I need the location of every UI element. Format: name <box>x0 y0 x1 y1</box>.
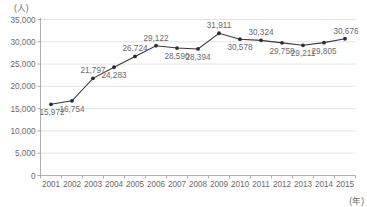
data-point-marker <box>217 31 221 35</box>
y-tick-label: 25,000 <box>10 60 35 69</box>
x-tick-label: 2008 <box>189 180 208 189</box>
data-labels: 15,97216,75421,79724,28326,72429,12228,5… <box>39 21 358 117</box>
x-tick-label: 2012 <box>273 180 292 189</box>
x-tick-label: 2007 <box>168 180 187 189</box>
data-point-label: 29,805 <box>311 47 336 56</box>
y-tick-label: 30,000 <box>10 38 35 47</box>
plot-area: 05,00010,00015,00020,00025,00030,00035,0… <box>0 0 367 207</box>
data-point-marker <box>70 99 74 103</box>
x-tick-label: 2015 <box>336 180 355 189</box>
y-tick-label: 15,000 <box>10 105 35 114</box>
data-point-marker <box>259 38 263 42</box>
y-axis-ticks: 05,00010,00015,00020,00025,00030,00035,0… <box>10 16 40 181</box>
data-point-label: 28,394 <box>185 53 210 62</box>
gridlines <box>41 20 356 154</box>
x-tick-label: 2013 <box>294 180 313 189</box>
chart-canvas: 05,00010,00015,00020,00025,00030,00035,0… <box>0 0 367 207</box>
data-point-marker <box>343 37 347 41</box>
data-point-label: 30,324 <box>248 28 273 37</box>
x-tick-label: 2002 <box>63 180 82 189</box>
x-tick-label: 2014 <box>315 180 334 189</box>
data-point-marker <box>238 37 242 41</box>
data-point-label: 29,122 <box>143 34 168 43</box>
data-point-marker <box>91 76 95 80</box>
y-tick-label: 0 <box>31 172 36 181</box>
data-point-label: 16,754 <box>59 105 84 114</box>
data-point-marker <box>175 46 179 50</box>
data-point-marker <box>133 54 137 58</box>
x-tick-label: 2009 <box>210 180 229 189</box>
data-point-marker <box>280 41 284 45</box>
data-point-marker <box>196 47 200 51</box>
data-point-marker <box>301 43 305 47</box>
data-point-marker <box>154 44 158 48</box>
data-point-label: 30,578 <box>227 43 252 52</box>
data-point-label: 30,676 <box>333 27 358 36</box>
x-tick-label: 2003 <box>84 180 103 189</box>
y-tick-label: 20,000 <box>10 82 35 91</box>
x-tick-label: 2001 <box>42 180 61 189</box>
y-tick-label: 35,000 <box>10 16 35 25</box>
x-tick-label: 2010 <box>231 180 250 189</box>
y-tick-label: 5,000 <box>15 149 36 158</box>
x-axis-ticks: 2001200220032004200520062007200820092010… <box>41 176 356 190</box>
data-point-label: 31,911 <box>207 21 232 30</box>
data-point-label: 26,724 <box>122 44 147 53</box>
line-chart: (人) (年) 05,00010,00015,00020,00025,00030… <box>0 0 367 207</box>
data-point-marker <box>49 102 53 106</box>
x-tick-label: 2011 <box>252 180 270 189</box>
data-point-label: 24,283 <box>101 71 126 80</box>
x-tick-label: 2006 <box>147 180 166 189</box>
data-point-marker <box>322 41 326 45</box>
y-tick-label: 10,000 <box>10 127 35 136</box>
data-point-marker <box>112 65 116 69</box>
x-tick-label: 2004 <box>105 180 124 189</box>
x-tick-label: 2005 <box>126 180 145 189</box>
